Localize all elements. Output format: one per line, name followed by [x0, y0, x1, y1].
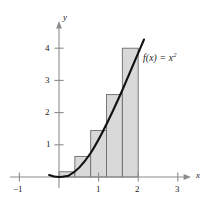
riemann-sum-figure: 4 3 2 1 −1 1 2 3 y x f(x) = x2: [0, 0, 209, 214]
y-axis: [54, 21, 63, 188]
plot-canvas: [0, 0, 209, 214]
function-label: f(x) = x2: [143, 51, 177, 63]
function-label-exponent: 2: [173, 51, 176, 58]
y-axis-label: y: [63, 12, 67, 22]
riemann-rect-2: [75, 156, 91, 177]
y-tick-label-4: 4: [45, 43, 50, 53]
riemann-rectangles: [59, 48, 138, 177]
function-label-text: f(x) = x: [143, 53, 173, 63]
x-tick-label-neg1: −1: [13, 184, 23, 194]
x-tick-label-1: 1: [96, 184, 101, 194]
x-tick-label-2: 2: [135, 184, 140, 194]
x-axis-label: x: [196, 170, 200, 180]
y-tick-label-2: 2: [45, 107, 50, 117]
y-tick-label-1: 1: [46, 139, 51, 149]
riemann-rect-5: [122, 48, 138, 177]
x-tick-label-3: 3: [175, 184, 180, 194]
y-tick-label-3: 3: [45, 75, 50, 85]
